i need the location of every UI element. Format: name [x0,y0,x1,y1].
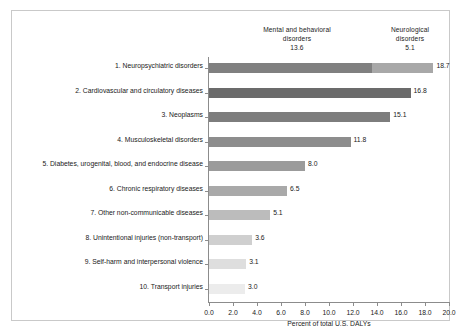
category-label: 6. Chronic respiratory diseases [0,183,203,194]
category-label: 5. Diabetes, urogenital, blood, and endo… [0,158,203,169]
table-row: 6. Chronic respiratory diseases6.5 [209,180,449,205]
bar [209,63,433,73]
bar [209,112,390,122]
x-axis-tick-label: 6.0 [276,308,285,317]
bar-value-label: 18.7 [436,61,449,71]
bar-segment [372,63,433,73]
x-axis-tick-label: 4.0 [252,308,261,317]
bar [209,137,351,147]
category-label: 2. Cardiovascular and circulatory diseas… [0,85,203,96]
bar-value-label: 3.6 [255,233,264,243]
table-row: 7. Other non-communicable diseases5.1 [209,204,449,229]
x-axis-tick-label: 2.0 [228,308,237,317]
bar [209,186,287,196]
annotation-mental-line1: Mental and behavioral [263,26,331,33]
category-label: 7. Other non-communicable diseases [0,207,203,218]
x-axis-title: Percent of total U.S. DALYs [209,320,449,327]
x-axis-tick [329,302,330,306]
annotation-mental-and-behavioral: Mental and behavioral disorders 13.6 [238,25,356,53]
x-axis-tick [425,302,426,306]
category-label: 9. Self-harm and interpersonal violence [0,256,203,267]
x-axis-tick [305,302,306,306]
bar-segment [209,112,390,122]
bar [209,259,246,269]
bar-segment [209,63,372,73]
x-axis-tick [281,302,282,306]
x-axis-tick-label: 0.0 [204,308,213,317]
bar-value-label: 15.1 [393,110,406,120]
table-row: 9. Self-harm and interpersonal violence3… [209,253,449,278]
annotation-neurological-line1: Neurological [391,26,429,33]
table-row: 8. Unintentional injuries (non-transport… [209,229,449,254]
table-row: 1. Neuropsychiatric disorders18.7 [209,57,449,82]
bar-value-label: 8.0 [308,159,317,169]
bar [209,284,245,294]
bar [209,88,411,98]
x-axis-tick [353,302,354,306]
x-axis-tick-label: 20.0 [442,308,455,317]
table-row: 5. Diabetes, urogenital, blood, and endo… [209,155,449,180]
bar [209,161,305,171]
bar-value-label: 5.1 [273,208,282,218]
bar-segment [209,137,351,147]
category-label: 4. Musculoskeletal disorders [0,134,203,145]
bar-segment [209,235,252,245]
x-axis-tick [377,302,378,306]
x-axis-tick [233,302,234,306]
chart-figure: Mental and behavioral disorders 13.6 Neu… [0,0,458,335]
bar-value-label: 3.1 [249,257,258,267]
bar-segment [209,88,411,98]
table-row: 4. Musculoskeletal disorders11.8 [209,131,449,156]
table-row: 2. Cardiovascular and circulatory diseas… [209,82,449,107]
bar-value-label: 6.5 [290,184,299,194]
bar-value-label: 16.8 [414,86,427,96]
annotation-neurological-value: 5.1 [367,43,453,52]
x-axis-tick [257,302,258,306]
bar-segment [209,259,246,269]
x-axis-tick-label: 8.0 [300,308,309,317]
table-row: 3. Neoplasms15.1 [209,106,449,131]
bar-segment [209,161,305,171]
annotation-neurological: Neurological disorders 5.1 [367,25,453,53]
annotation-mental-line2: disorders [283,35,311,42]
x-axis-tick-label: 12.0 [346,308,359,317]
category-label: 8. Unintentional injuries (non-transport… [0,232,203,243]
bar [209,235,252,245]
x-axis-tick-label: 14.0 [370,308,383,317]
x-axis-tick-label: 16.0 [394,308,407,317]
category-label: 3. Neoplasms [0,109,203,120]
x-axis-tick-label: 18.0 [418,308,431,317]
bar-value-label: 11.8 [354,135,367,145]
bar-value-label: 3.0 [248,282,257,292]
bar-segment [209,186,287,196]
annotation-neurological-line2: disorders [396,35,424,42]
x-axis-tick [449,302,450,306]
figure-frame: Mental and behavioral disorders 13.6 Neu… [11,10,450,321]
annotation-mental-value: 13.6 [238,43,356,52]
category-label: 10. Transport injuries [0,281,203,292]
category-label: 1. Neuropsychiatric disorders [0,60,203,71]
x-axis-tick-label: 10.0 [322,308,335,317]
bar [209,210,270,220]
bar-segment [209,210,270,220]
x-axis-tick [401,302,402,306]
plot-area: 1. Neuropsychiatric disorders18.72. Card… [208,57,449,303]
bar-segment [209,284,245,294]
table-row: 10. Transport injuries3.0 [209,278,449,303]
x-axis-tick [209,302,210,306]
